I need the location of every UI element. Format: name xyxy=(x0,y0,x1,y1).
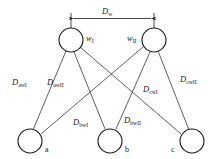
dimension-label-dw: Dw xyxy=(102,7,112,16)
edge-label-cwI: DcwI xyxy=(143,85,158,94)
edge-label-awI: DawI xyxy=(12,78,27,87)
node-label-c: c xyxy=(171,146,175,154)
node-circle-wII xyxy=(142,28,166,52)
edge-label-cwII: DcwII xyxy=(180,75,197,84)
node-circle-wI xyxy=(59,28,83,52)
edge-label-bwI: DbwI xyxy=(73,118,88,127)
node-label-wII: wII xyxy=(127,34,137,43)
node-circle-c xyxy=(180,129,204,153)
top-nodes-group xyxy=(59,28,166,52)
node-label-a: a xyxy=(45,146,49,154)
edge-lines xyxy=(33,47,189,134)
node-label-b: b xyxy=(125,146,129,154)
edge-label-awII: DawII xyxy=(47,78,64,87)
dimension-guides xyxy=(71,13,154,30)
node-circle-b xyxy=(98,129,122,153)
node-label-wI: wI xyxy=(86,34,94,43)
node-circle-a xyxy=(18,129,42,153)
figure-canvas: Dw wI wII DawI DawII DbwI DbwII DcwI Dcw… xyxy=(0,0,221,159)
edge-label-bwII: DbwII xyxy=(124,116,141,125)
edge-line-a-wI xyxy=(33,51,66,130)
